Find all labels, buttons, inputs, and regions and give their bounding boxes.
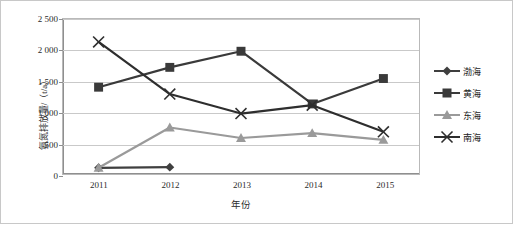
legend-swatch-diamond-icon bbox=[434, 65, 460, 77]
series-line bbox=[99, 167, 170, 168]
y-tick-label: 1 000 bbox=[38, 109, 58, 118]
legend-label: 东海 bbox=[463, 109, 481, 122]
legend-item-1[interactable]: 黄海 bbox=[434, 82, 512, 104]
chart-legend: 渤海黄海东海南海 bbox=[434, 60, 512, 148]
data-point-diamond bbox=[165, 163, 174, 172]
y-tick-label: 1 500 bbox=[38, 77, 58, 86]
legend-swatch-square-icon bbox=[434, 87, 460, 99]
x-tick-label: 2012 bbox=[161, 181, 179, 190]
plot-area: 05001 0001 5002 0002 500 201120122013201… bbox=[62, 18, 420, 175]
data-point-x bbox=[442, 132, 453, 143]
data-point-diamond bbox=[443, 67, 452, 76]
data-point-square bbox=[379, 74, 388, 83]
y-tick-label: 2 500 bbox=[38, 15, 58, 24]
y-tick-mark bbox=[59, 176, 63, 177]
y-tick-label: 0 bbox=[54, 172, 59, 181]
legend-label: 黄海 bbox=[463, 87, 481, 100]
series-layer bbox=[63, 19, 419, 174]
data-point-square bbox=[165, 63, 174, 72]
data-point-x bbox=[93, 37, 104, 48]
legend-item-2[interactable]: 东海 bbox=[434, 104, 512, 126]
legend-label: 南海 bbox=[463, 131, 481, 144]
data-point-triangle bbox=[442, 110, 452, 119]
series-line bbox=[99, 51, 384, 104]
y-tick-label: 2 000 bbox=[38, 46, 58, 55]
x-tick-label: 2011 bbox=[90, 181, 108, 190]
legend-swatch-x-icon bbox=[434, 131, 460, 143]
chart-figure: 氨氮排放量/（t/a） 05001 0001 5002 0002 500 201… bbox=[0, 0, 514, 225]
data-point-square bbox=[94, 83, 103, 92]
legend-label: 渤海 bbox=[463, 65, 481, 78]
legend-item-3[interactable]: 南海 bbox=[434, 126, 512, 148]
x-tick-label: 2013 bbox=[233, 181, 251, 190]
legend-item-0[interactable]: 渤海 bbox=[434, 60, 512, 82]
data-point-square bbox=[443, 89, 452, 98]
data-point-square bbox=[237, 47, 246, 56]
legend-swatch-triangle-icon bbox=[434, 109, 460, 121]
y-tick-label: 500 bbox=[45, 140, 59, 149]
x-tick-label: 2014 bbox=[305, 181, 323, 190]
x-axis-title: 年份 bbox=[62, 197, 420, 211]
x-tick-label: 2015 bbox=[376, 181, 394, 190]
